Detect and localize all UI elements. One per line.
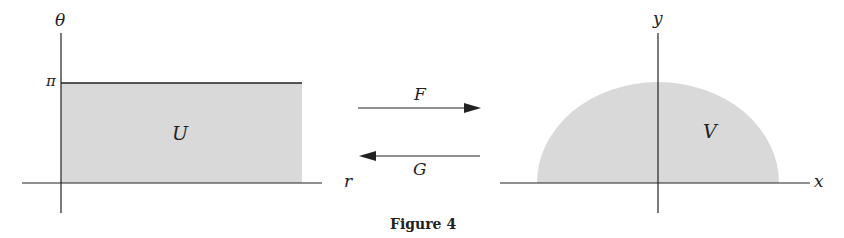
region-v-label: V: [703, 120, 717, 142]
arrow-g-head: [359, 151, 376, 161]
map-g-label: G: [413, 159, 427, 179]
arrow-f-head: [464, 103, 481, 113]
r-axis-label: r: [344, 171, 352, 191]
region-u-label: U: [172, 122, 188, 144]
y-axis-label: y: [653, 8, 663, 28]
figure-drawing: [0, 0, 844, 238]
theta-axis-label: θ: [55, 10, 65, 30]
map-f-label: F: [414, 84, 426, 104]
x-axis-label: x: [814, 171, 824, 191]
figure-caption: Figure 4: [390, 216, 456, 232]
pi-tick-label: π: [46, 72, 56, 90]
